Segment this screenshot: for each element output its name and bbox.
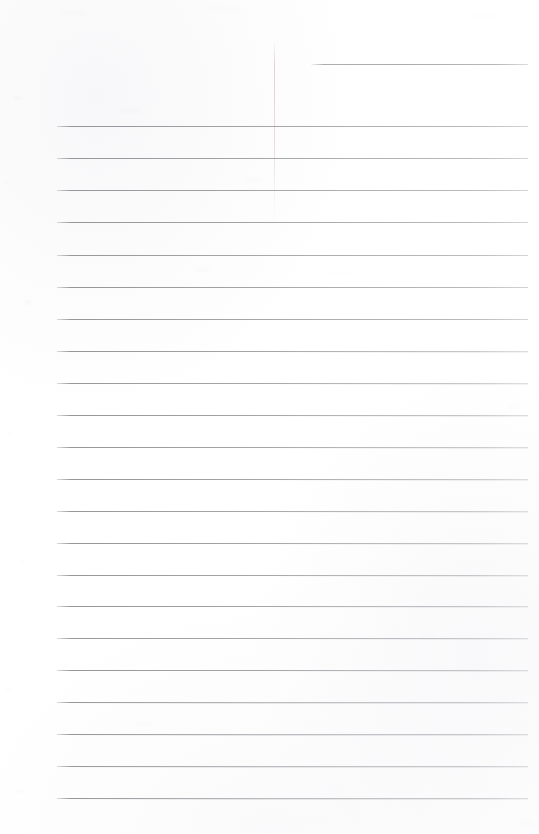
scan-speckle xyxy=(120,108,142,113)
scan-speckle xyxy=(420,636,435,640)
ruled-line xyxy=(57,575,528,576)
scanned-page xyxy=(0,0,539,834)
scan-speckle xyxy=(470,14,494,19)
scan-speckle xyxy=(520,820,534,826)
ruled-line xyxy=(57,383,528,384)
ruled-line xyxy=(57,511,528,512)
vertical-margin-rule xyxy=(274,40,275,225)
scan-speckle xyxy=(8,432,12,436)
ruled-line xyxy=(57,606,528,607)
ruled-line xyxy=(57,255,528,256)
scan-speckle xyxy=(210,6,240,12)
scan-speckle xyxy=(25,300,31,305)
ruled-line-partial xyxy=(311,64,528,65)
ruled-line xyxy=(57,319,528,320)
paper-texture xyxy=(0,0,539,834)
ruled-line xyxy=(57,798,528,799)
scan-speckle xyxy=(3,180,8,183)
ruled-line xyxy=(57,638,528,639)
scan-speckle xyxy=(135,722,153,726)
ruled-line xyxy=(57,351,528,352)
ruled-line xyxy=(57,734,528,735)
ruled-line xyxy=(57,158,528,159)
ruled-line xyxy=(57,702,528,703)
ruled-line xyxy=(57,543,528,544)
scan-speckle xyxy=(330,272,350,276)
scan-speckle xyxy=(245,178,261,182)
scan-speckle xyxy=(6,688,11,692)
ruled-line xyxy=(57,222,528,223)
ruled-line xyxy=(57,766,528,767)
scan-speckle xyxy=(14,96,21,100)
ruled-line xyxy=(57,479,528,480)
ruled-line xyxy=(57,190,528,191)
scan-speckle xyxy=(19,560,25,563)
scan-speckle xyxy=(60,10,86,16)
scan-speckle-layer xyxy=(0,0,539,834)
scan-speckle xyxy=(16,790,23,793)
ruled-line xyxy=(57,447,528,448)
scan-speckle xyxy=(508,404,520,409)
scan-speckle xyxy=(196,268,210,272)
ruled-line xyxy=(57,670,528,671)
ruled-line xyxy=(57,126,528,127)
ruled-line xyxy=(57,415,528,416)
ruled-line xyxy=(57,287,528,288)
